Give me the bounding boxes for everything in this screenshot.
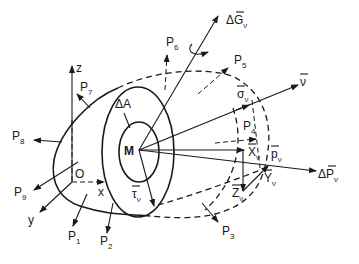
section-back-dash: [158, 167, 268, 205]
label-p4: P4: [243, 119, 256, 136]
label-p6: P6: [166, 35, 179, 52]
body-diagram: z x y O M ΔA P1 P2 P3 P4 P5 P6 P7 P8 P9 …: [0, 0, 359, 264]
label-p2: P2: [100, 234, 113, 251]
label-z-nu: Zν: [232, 186, 243, 203]
label-sigma: σν: [237, 87, 248, 104]
label-z: z: [76, 61, 82, 75]
label-delta-p: ΔPν: [318, 167, 338, 184]
arrow-p2: [107, 203, 113, 233]
arrow-p4: [215, 139, 256, 143]
arrow-p5: [198, 68, 228, 94]
vector-nu: [139, 85, 298, 150]
label-p3: P3: [222, 224, 235, 241]
label-origin: O: [75, 167, 84, 181]
label-y: y: [28, 213, 34, 227]
vector-sigma-mark: [236, 105, 249, 110]
label-p5: P5: [234, 53, 247, 70]
label-p7: P7: [80, 80, 93, 97]
arrow-p1: [73, 194, 87, 226]
vector-delta-p: [139, 150, 316, 171]
label-delta-g: ΔGν: [226, 13, 247, 30]
label-p9: P9: [14, 185, 27, 202]
label-y-nu: Yν: [264, 171, 276, 188]
label-tau: τν: [132, 187, 141, 204]
label-p1: P1: [68, 229, 81, 246]
arrow-p8: [34, 140, 62, 142]
label-p8: P8: [12, 129, 25, 146]
label-area: ΔA: [115, 97, 131, 111]
area-pointer: [124, 113, 130, 128]
label-x-nu: Xν: [248, 145, 260, 162]
label-p-nu: pν: [271, 147, 282, 164]
label-m: M: [124, 144, 134, 158]
arrow-p6: [165, 55, 167, 90]
label-nu: ν: [300, 75, 306, 89]
diagram-canvas: z x y O M ΔA P1 P2 P3 P4 P5 P6 P7 P8 P9 …: [0, 0, 359, 264]
label-x: x: [98, 185, 104, 199]
vector-delta-g: [139, 16, 218, 150]
vector-tau: [139, 150, 154, 206]
